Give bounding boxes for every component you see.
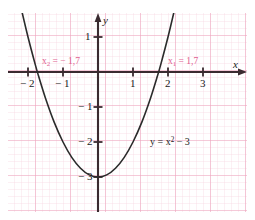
grid-background <box>0 2 255 220</box>
coordinate-plane <box>0 0 255 220</box>
graph-figure: − 2 − 1 1 2 3 1 − 1 − 2 − 3 x y x2 = − 1… <box>0 0 255 220</box>
